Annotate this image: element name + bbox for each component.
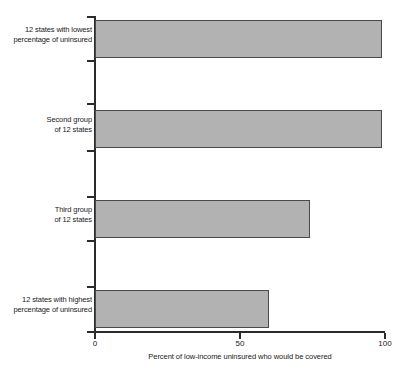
category-label-third-group: Third group of 12 states: [0, 205, 92, 224]
plot-area: [95, 16, 385, 332]
x-axis-title: Percent of low-income uninsured who woul…: [95, 352, 385, 362]
bar-lowest-uninsured[interactable]: [95, 20, 382, 58]
y-axis-tick: [87, 286, 95, 288]
x-tick-label-0: 0: [75, 339, 115, 349]
category-label-line2: percentage of uninsured: [0, 305, 92, 315]
category-label-line1: 12 states with highest: [0, 295, 92, 305]
category-label-line1: Second group: [0, 115, 92, 125]
x-tick-label-100: 100: [365, 339, 405, 349]
bar-second-group[interactable]: [95, 110, 382, 148]
category-label-line1: 12 states with lowest: [0, 25, 92, 35]
category-label-highest-uninsured: 12 states with highest percentage of uni…: [0, 295, 92, 314]
category-label-line2: of 12 states: [0, 215, 92, 225]
y-axis-tick: [87, 150, 95, 152]
category-label-lowest-uninsured: 12 states with lowest percentage of unin…: [0, 25, 92, 44]
category-label-line2: of 12 states: [0, 125, 92, 135]
y-axis-tick: [87, 103, 95, 105]
y-axis-tick: [87, 16, 95, 18]
bar-third-group[interactable]: [95, 200, 310, 238]
category-label-second-group: Second group of 12 states: [0, 115, 92, 134]
y-axis-tick: [87, 240, 95, 242]
bar-highest-uninsured[interactable]: [95, 290, 269, 328]
bar-chart: 12 states with lowest percentage of unin…: [0, 0, 410, 380]
category-label-line1: Third group: [0, 205, 92, 215]
y-axis-tick: [87, 196, 95, 198]
category-label-line2: percentage of uninsured: [0, 35, 92, 45]
y-axis-tick: [87, 60, 95, 62]
x-tick-label-50: 50: [220, 339, 260, 349]
